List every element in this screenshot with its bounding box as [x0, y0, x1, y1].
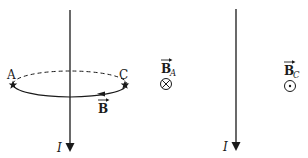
out-of-page-icon: [285, 81, 296, 92]
right-wire: [232, 9, 241, 151]
point-a-label: A: [6, 68, 16, 82]
field-a-group: B A: [161, 58, 177, 89]
magnetic-field-diagram: A C B I B A I B C: [0, 0, 308, 158]
current-arrow-icon: [66, 143, 75, 152]
right-current-label: I: [222, 140, 228, 154]
current-arrow-icon: [232, 142, 241, 151]
field-a-subscript: A: [169, 68, 176, 78]
into-page-icon: [161, 79, 172, 90]
left-current-label: I: [56, 141, 62, 155]
field-b-label: B: [98, 102, 108, 116]
point-c-label: C: [119, 68, 128, 82]
field-b-label-group: B: [98, 98, 110, 116]
field-c-subscript: C: [293, 70, 300, 80]
left-wire: [66, 10, 75, 152]
field-c-group: B C: [284, 60, 300, 91]
